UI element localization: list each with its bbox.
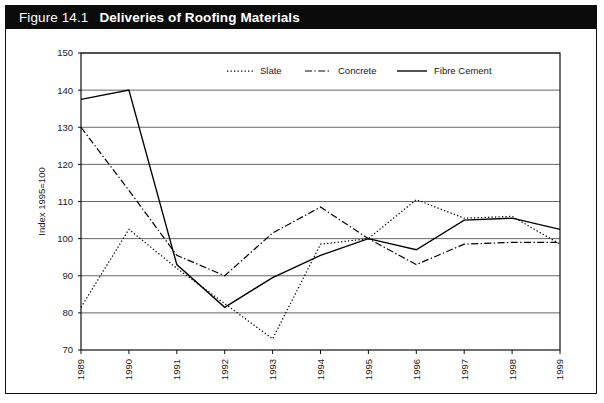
line-chart: 7080901001101201301401501989199019911992…	[5, 29, 597, 394]
figure-title: Deliveries of Roofing Materials	[99, 10, 299, 25]
x-axis-tick-label: 1989	[75, 359, 86, 380]
figure-number: Figure 14.1	[19, 10, 88, 25]
x-axis-tick-label: 1999	[554, 359, 565, 380]
y-axis-tick-label: 130	[57, 122, 73, 133]
y-axis-tick-label: 70	[62, 344, 73, 355]
x-axis-tick-label: 1991	[171, 359, 182, 380]
y-axis-tick-label: 110	[58, 196, 73, 207]
y-axis-tick-label: 90	[62, 270, 73, 281]
x-axis-tick-label: 1990	[123, 359, 134, 380]
x-axis-tick-label: 1997	[459, 359, 470, 380]
x-axis-tick-label: 1993	[267, 359, 278, 380]
legend-label-concrete: Concrete	[338, 65, 377, 76]
x-axis-tick-label: 1992	[219, 359, 230, 380]
y-axis-tick-label: 150	[57, 47, 73, 58]
chart-area: 7080901001101201301401501989199019911992…	[5, 29, 597, 394]
legend-label-fibre-cement: Fibre Cement	[434, 65, 492, 76]
x-axis-tick-label: 1995	[363, 359, 374, 380]
y-axis-tick-label: 140	[57, 85, 73, 96]
figure-container: Figure 14.1 Deliveries of Roofing Materi…	[0, 0, 604, 403]
y-axis-tick-label: 100	[57, 233, 73, 244]
legend-label-slate: Slate	[260, 65, 282, 76]
figure-title-bar: Figure 14.1 Deliveries of Roofing Materi…	[5, 5, 597, 29]
y-axis-title: Index 1995=100	[36, 167, 47, 235]
x-axis-tick-label: 1994	[315, 359, 326, 380]
x-axis-tick-label: 1998	[507, 359, 518, 380]
y-axis-tick-label: 120	[57, 159, 73, 170]
y-axis-tick-label: 80	[62, 307, 73, 318]
x-axis-tick-label: 1996	[411, 359, 422, 380]
series-line-slate	[81, 200, 560, 339]
series-line-fibre-cement	[81, 90, 560, 307]
